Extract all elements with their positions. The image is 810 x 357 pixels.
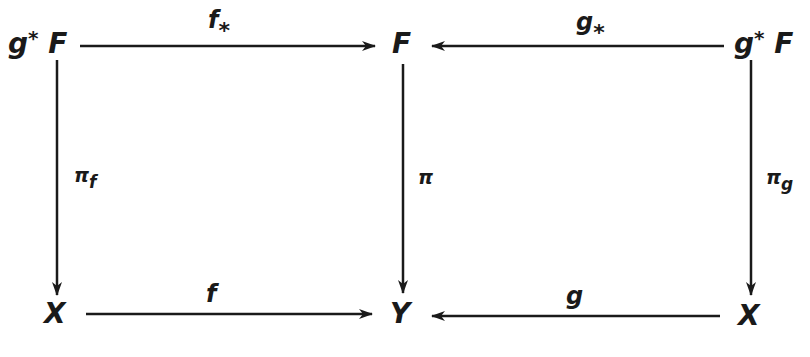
node-base: g	[8, 27, 28, 60]
label-base: g	[566, 282, 583, 310]
label-g: g	[566, 284, 583, 308]
label-sub: g	[781, 174, 793, 194]
label-f-star: f*	[208, 8, 230, 42]
node-tail: F	[765, 27, 794, 60]
label-base: π	[766, 166, 781, 188]
node-X-left: X	[44, 300, 66, 328]
label-base: π	[418, 166, 433, 188]
label-base: f	[206, 280, 216, 308]
node-text: X	[738, 299, 760, 332]
node-text: F	[392, 27, 411, 60]
label-g-star: g*	[576, 10, 605, 44]
node-X-right: X	[738, 302, 760, 330]
node-F-middle: F	[392, 30, 411, 58]
node-g-star-F-right: g* F	[734, 28, 793, 58]
node-tail: F	[39, 27, 68, 60]
label-sub: f	[89, 172, 96, 192]
label-pi: π	[418, 168, 433, 187]
label-pi-f: πf	[74, 166, 96, 191]
node-base: g	[734, 27, 754, 60]
label-sub: *	[218, 18, 230, 43]
node-text: Y	[390, 297, 410, 330]
node-sup: *	[28, 26, 38, 50]
node-sup: *	[754, 26, 764, 50]
node-Y-middle: Y	[390, 300, 410, 328]
label-base: g	[576, 8, 593, 36]
label-f: f	[206, 282, 216, 306]
label-base: f	[208, 6, 218, 34]
node-g-star-F-left: g* F	[8, 28, 67, 58]
label-sub: *	[593, 20, 605, 45]
node-text: X	[44, 297, 66, 330]
label-base: π	[74, 164, 89, 186]
label-pi-g: πg	[766, 168, 793, 193]
commutative-diagram: g* F F g* F X Y X f* g* πf π πg f g	[0, 0, 810, 357]
